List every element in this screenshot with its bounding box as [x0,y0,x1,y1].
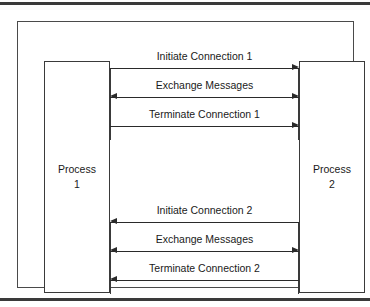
message-label: Terminate Connection 2 [110,262,299,274]
message-row: Initiate Connection 2 [110,204,299,230]
top-divider-rule [0,2,370,5]
arrowhead-left-icon [110,276,117,282]
arrow-shaft [110,280,299,281]
message-row: Initiate Connection 1 [110,50,299,76]
arrow-shaft [110,222,299,223]
arrowhead-right-icon [292,93,299,99]
message-label: Initiate Connection 2 [110,204,299,216]
process-connection-diagram: Process 1 Process 2 Initiate Connection … [0,0,370,307]
arrow-shaft [110,126,299,127]
arrowhead-right-icon [292,122,299,128]
message-row: Exchange Messages [110,79,299,105]
process-right-number: 2 [329,177,335,192]
message-row: Exchange Messages [110,233,299,259]
message-row: Terminate Connection 2 [110,262,299,288]
bottom-divider-rule [0,298,370,301]
process-right-name: Process [313,162,351,177]
arrowhead-right-icon [292,247,299,253]
arrow-shaft [110,251,299,252]
message-label: Exchange Messages [110,79,299,91]
message-label: Terminate Connection 1 [110,108,299,120]
message-label: Exchange Messages [110,233,299,245]
arrow-shaft [110,68,299,69]
message-label: Initiate Connection 1 [110,50,299,62]
arrowhead-left-icon [110,247,117,253]
process-left-number: 1 [74,177,80,192]
arrow-shaft [110,97,299,98]
message-row: Terminate Connection 1 [110,108,299,134]
arrowhead-left-icon [110,218,117,224]
process-left-name: Process [58,162,96,177]
diagram-frame: Process 1 Process 2 Initiate Connection … [17,21,354,288]
process-box-right: Process 2 [299,61,365,293]
arrowhead-right-icon [292,64,299,70]
arrowhead-left-icon [110,93,117,99]
process-box-left: Process 1 [44,61,110,293]
